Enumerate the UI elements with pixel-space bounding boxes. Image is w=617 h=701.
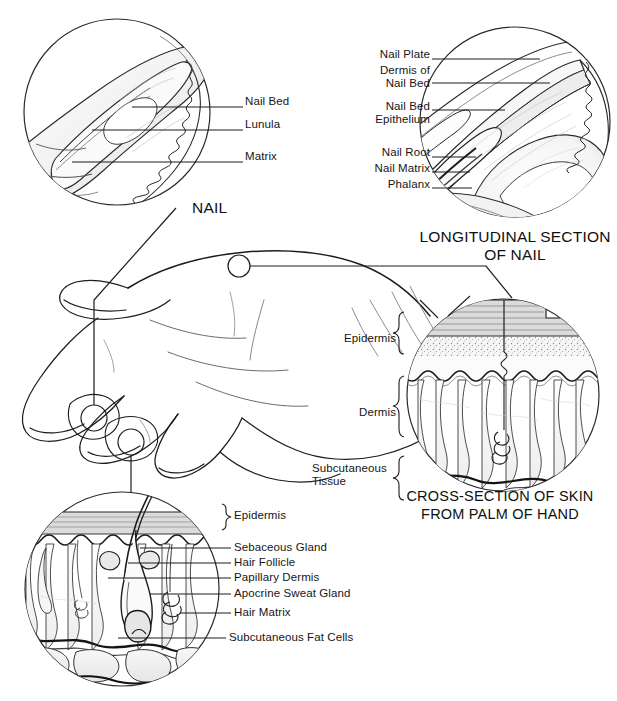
palm-callout-leader: [250, 266, 512, 298]
panel-title-palm-line2: FROM PALM OF HAND: [385, 505, 615, 523]
panel-title-palm-line1: CROSS-SECTION OF SKIN: [385, 487, 615, 505]
panel-nail-surface: [14, 19, 210, 218]
label-matrix: Matrix: [245, 150, 277, 163]
label-hair-matrix: Hair Matrix: [234, 606, 291, 619]
label-epidermis-hair: Epidermis: [234, 509, 286, 522]
palm-callout-circle: [228, 255, 250, 277]
label-nail-bed-3: Nail Bed: [330, 100, 430, 113]
label-papillary-dermis: Papillary Dermis: [234, 571, 319, 584]
panel-title-longitudinal-line1: LONGITUDINAL SECTION: [415, 228, 615, 246]
label-phalanx: Phalanx: [330, 178, 430, 191]
bracket-epidermis-hair: [222, 504, 231, 530]
label-apocrine-sweat-gland: Apocrine Sweat Gland: [234, 587, 350, 600]
bracket-group-left: [222, 504, 231, 530]
label-nail-plate: Nail Plate: [330, 48, 430, 61]
hand-illustration: [22, 251, 442, 482]
fingertip-callout-nail-leader: [94, 208, 176, 405]
label-nail-root: Nail Root: [330, 146, 430, 159]
label-sebaceous-gland: Sebaceous Gland: [234, 541, 327, 554]
panel-title-longitudinal-line2: OF NAIL: [415, 246, 615, 264]
fingertip-callout-nail: [81, 405, 107, 431]
label-subcutaneous-tissue: Subcutaneous Tissue: [312, 462, 402, 488]
label-lunula: Lunula: [245, 118, 280, 131]
label-dermis-of: Dermis of: [330, 64, 430, 77]
label-nail-bed: Nail Bed: [245, 95, 289, 108]
label-epidermis-palm: Epidermis: [312, 332, 396, 345]
label-nail-bed-2: Nail Bed: [330, 77, 430, 90]
anatomy-figure: Nail Bed Lunula Matrix NAIL Nail Plate D…: [0, 0, 617, 701]
label-dermis-palm: Dermis: [312, 406, 396, 419]
panel-title-nail: NAIL: [192, 199, 227, 217]
panel-skin-hair: [24, 488, 221, 698]
label-subcutaneous-fat-cells: Subcutaneous Fat Cells: [229, 631, 353, 644]
label-hair-follicle: Hair Follicle: [234, 556, 295, 569]
label-epithelium: Epithelium: [330, 113, 430, 126]
label-nail-matrix: Nail Matrix: [330, 162, 430, 175]
